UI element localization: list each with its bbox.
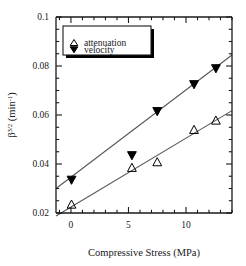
y-tick-label: 0.04 <box>32 159 49 169</box>
y-tick-label: 0.02 <box>32 208 49 218</box>
x-tick-label: 0 <box>69 220 74 230</box>
x-axis-title: Compressive Stress (MPa) <box>88 247 200 259</box>
scatter-plot: 05100.020.040.060.080.1 Compressive Stre… <box>0 0 246 266</box>
legend: attenuation velocity <box>63 26 154 58</box>
y-tick-label: 0.06 <box>32 110 49 120</box>
y-axis-title-unit-close: ) <box>6 92 18 96</box>
chart-figure: 05100.020.040.060.080.1 Compressive Stre… <box>0 0 246 266</box>
legend-label-velocity: velocity <box>84 45 115 55</box>
x-tick-label: 10 <box>181 220 191 230</box>
y-tick-label: 0.1 <box>37 12 49 22</box>
y-axis-title-unit-open: (min <box>6 101 18 124</box>
y-tick-label: 0.08 <box>32 61 49 71</box>
x-tick-label: 5 <box>126 220 131 230</box>
